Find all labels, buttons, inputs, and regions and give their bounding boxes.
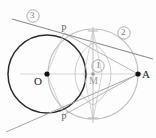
point-A <box>135 71 140 76</box>
point-label-P-lower: P' <box>61 112 68 123</box>
marker-label-3: 3 <box>30 11 35 20</box>
marker-label-2: 2 <box>121 28 126 37</box>
point-label-O: O <box>34 76 42 87</box>
point-label-M: M <box>89 76 98 86</box>
point-label-P-lower-prime: ' <box>67 111 68 119</box>
point-label-P-upper: P <box>61 24 67 34</box>
geometry-diagram-svg <box>0 0 156 138</box>
point-O <box>44 71 49 76</box>
marker-label-1: 1 <box>96 61 101 70</box>
geometry-figure-root: O A M P P' 3 2 1 <box>0 0 156 138</box>
diagram-background <box>0 0 156 138</box>
point-label-A: A <box>142 69 150 80</box>
